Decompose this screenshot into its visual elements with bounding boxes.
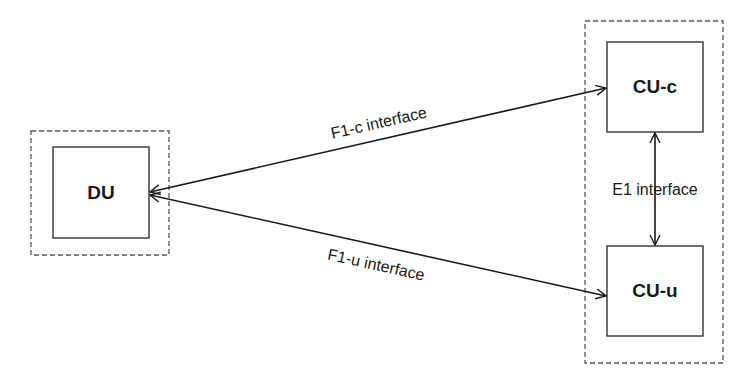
f1u-interface-label: F1-u interface [326, 246, 426, 284]
cu-u-label: CU-u [632, 280, 677, 301]
du-label: DU [87, 182, 114, 203]
f1c-interface-connector: F1-c interface [150, 88, 606, 192]
diagram-canvas: DU CU-c CU-u F1-c interface F1-u interfa… [0, 0, 750, 381]
f1u-interface-connector: F1-u interface [150, 195, 606, 296]
f1c-bidirectional-arrow [150, 88, 606, 192]
cu-c-node[interactable]: CU-c [607, 42, 703, 132]
cu-c-label: CU-c [633, 76, 678, 97]
e1-interface-label: E1 interface [612, 181, 697, 198]
f1u-bidirectional-arrow [150, 195, 606, 296]
f1c-interface-label: F1-c interface [329, 103, 428, 141]
cu-u-node[interactable]: CU-u [607, 246, 703, 336]
du-node[interactable]: DU [53, 147, 149, 238]
e1-interface-connector: E1 interface [612, 133, 697, 245]
